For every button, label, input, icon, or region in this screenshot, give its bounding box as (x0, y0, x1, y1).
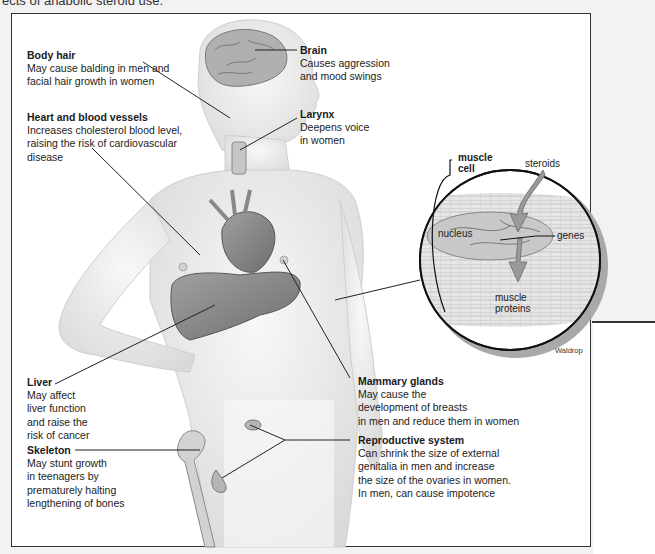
larynx (232, 142, 246, 174)
label-brain: Brain Causes aggression and mood swings (300, 44, 390, 84)
inset-label-muscle-cell: muscle cell (458, 152, 492, 174)
label-body-hair: Body hair May cause balding in men and f… (27, 49, 169, 89)
inset-label-steroids: steroids (525, 158, 560, 169)
inset-label-nucleus: nucleus (438, 228, 472, 239)
inset-label-muscle-proteins: muscle proteins (495, 292, 531, 314)
label-reproductive: Reproductive system Can shrink the size … (358, 434, 511, 500)
label-liver: Liver May affect liver function and rais… (27, 376, 89, 442)
label-skeleton: Skeleton May stunt growth in teenagers b… (27, 444, 125, 510)
muscle-cell-inset (410, 160, 610, 358)
label-heart: Heart and blood vessels Increases choles… (27, 111, 182, 164)
inset-label-genes: genes (557, 230, 584, 241)
illustrator-credit: Waldrop (555, 346, 583, 355)
label-mammary: Mammary glands May cause the development… (358, 375, 519, 428)
label-larynx: Larynx Deepens voice in women (300, 108, 369, 148)
